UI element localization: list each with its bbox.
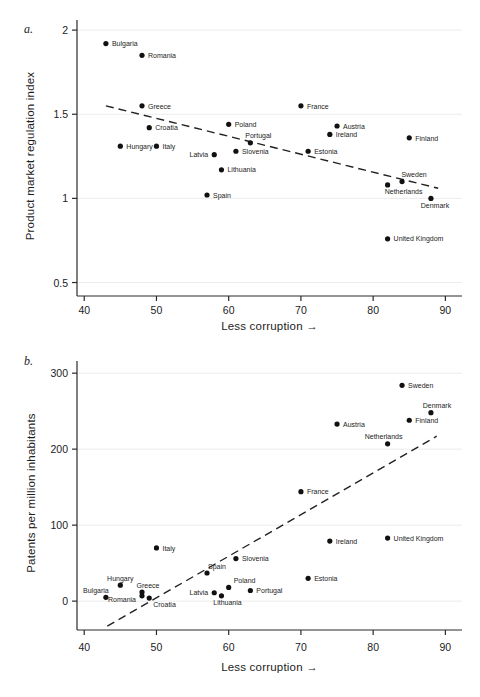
data-point (298, 489, 303, 494)
data-point (212, 590, 217, 595)
data-point (204, 192, 209, 197)
data-point (226, 122, 231, 127)
data-point-label: Poland (235, 121, 257, 128)
data-point-label: Bulgaria (112, 40, 138, 48)
data-point (248, 140, 253, 145)
y-tick-label: 300 (50, 367, 68, 379)
data-point-label: Greece (148, 103, 171, 110)
data-point (219, 593, 224, 598)
x-tick-label: 90 (440, 304, 452, 316)
data-point-label: Latvia (190, 589, 209, 596)
data-point (154, 545, 159, 550)
scatter-plot-a: 4050607080900.511.52BulgariaRomaniaGreec… (0, 0, 480, 348)
data-point-label: Greece (137, 582, 160, 589)
data-point (306, 576, 311, 581)
y-tick-label: 1.5 (53, 108, 68, 120)
data-point (219, 167, 224, 172)
data-point-label: Denmark (423, 402, 452, 409)
data-point (399, 179, 404, 184)
data-point (118, 144, 123, 149)
x-tick-label: 80 (367, 304, 379, 316)
data-point-label: Bulgaria (83, 587, 109, 595)
data-point-label: Sweden (408, 382, 433, 389)
data-point (233, 149, 238, 154)
data-point-label: Portugal (245, 132, 272, 140)
scatter-plot-b: 4050607080900100200300SwedenDenmarkFinla… (0, 348, 480, 697)
y-tick-label: 2 (62, 24, 68, 36)
data-point (139, 593, 144, 598)
data-point (399, 383, 404, 388)
x-tick-label: 50 (151, 304, 163, 316)
data-point-label: Estonia (314, 575, 337, 582)
data-point (298, 103, 303, 108)
panel-a-x-axis-title: Less corruption → (77, 320, 462, 332)
x-tick-label: 60 (223, 641, 235, 653)
data-point-label: Ireland (336, 538, 358, 545)
x-tick-label: 70 (295, 304, 307, 316)
data-point-label: Poland (234, 577, 256, 584)
data-point (428, 196, 433, 201)
data-point-label: France (307, 103, 329, 110)
data-point (147, 125, 152, 130)
x-tick-label: 80 (367, 641, 379, 653)
data-point (306, 149, 311, 154)
data-point-label: Lithuania (213, 599, 242, 606)
data-point-label: Netherlands (385, 188, 423, 195)
y-tick-label: 0.5 (53, 277, 68, 289)
data-point-label: United Kingdom (394, 535, 444, 543)
data-point-label: Hungary (126, 143, 153, 151)
data-point-label: Hungary (107, 575, 134, 583)
data-point-label: Netherlands (365, 433, 403, 440)
data-point (212, 152, 217, 157)
data-point (334, 123, 339, 128)
data-point (233, 556, 238, 561)
panel-b-y-axis-title: Patents per million inhabitants (25, 359, 37, 628)
data-point (385, 236, 390, 241)
data-point (248, 588, 253, 593)
x-tick-label: 50 (151, 641, 163, 653)
x-tick-label: 90 (440, 641, 452, 653)
y-tick-label: 200 (50, 443, 68, 455)
data-point-label: Austria (343, 421, 365, 428)
data-point-label: Portugal (256, 587, 283, 595)
data-point (139, 53, 144, 58)
data-point (334, 421, 339, 426)
data-point-label: Sweden (401, 171, 426, 178)
data-point (226, 585, 231, 590)
data-point-label: Lithuania (227, 166, 256, 173)
panel-a: 4050607080900.511.52BulgariaRomaniaGreec… (0, 0, 480, 348)
data-point (139, 103, 144, 108)
data-point-label: Estonia (314, 148, 337, 155)
panel-a-y-axis-title: Product market regulation index (24, 18, 36, 294)
data-point-label: United Kingdom (394, 235, 444, 243)
data-point-label: Spain (208, 563, 226, 571)
x-tick-label: 60 (223, 304, 235, 316)
data-point (428, 410, 433, 415)
x-tick-label: 40 (78, 641, 90, 653)
data-point-label: Slovenia (242, 148, 269, 155)
data-point-label: Spain (213, 192, 231, 200)
data-point-label: France (307, 488, 329, 495)
data-point (385, 535, 390, 540)
data-point (118, 583, 123, 588)
data-point-label: Latvia (190, 151, 209, 158)
data-point-label: Romania (108, 596, 136, 603)
data-point-label: Romania (148, 52, 176, 59)
data-point-label: Austria (343, 123, 365, 130)
y-tick-label: 0 (62, 595, 68, 607)
data-point (103, 595, 108, 600)
data-point (204, 570, 209, 575)
y-tick-label: 100 (50, 519, 68, 531)
data-point-label: Slovenia (242, 555, 269, 562)
data-point-label: Finland (415, 135, 438, 142)
y-tick-label: 1 (62, 192, 68, 204)
data-point (385, 441, 390, 446)
data-point-label: Ireland (336, 131, 358, 138)
data-point (407, 418, 412, 423)
data-point-label: Croatia (155, 124, 178, 131)
panel-b: 4050607080900100200300SwedenDenmarkFinla… (0, 348, 480, 697)
data-point-label: Finland (415, 417, 438, 424)
x-tick-label: 70 (295, 641, 307, 653)
data-point (147, 595, 152, 600)
data-point (407, 135, 412, 140)
